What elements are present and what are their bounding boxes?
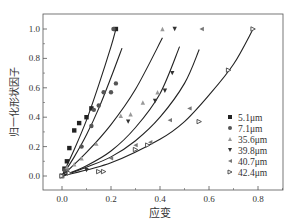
data-point bbox=[228, 115, 232, 119]
data-point bbox=[228, 137, 232, 141]
data-points bbox=[60, 27, 256, 178]
data-point bbox=[89, 124, 93, 128]
x-axis-ticks: 0.00.20.40.60.8 bbox=[56, 186, 282, 204]
data-point bbox=[163, 89, 167, 93]
fit-curve bbox=[62, 29, 253, 176]
x-tick-label: 0.8 bbox=[252, 194, 264, 204]
legend-label: 5.1μm bbox=[238, 113, 263, 123]
legend: 5.1μm7.1μm35.6μm39.8μm40.7μm42.4μm bbox=[228, 113, 268, 178]
legend-label: 39.8μm bbox=[238, 146, 268, 156]
data-point bbox=[148, 140, 152, 144]
data-point bbox=[197, 119, 201, 123]
data-point bbox=[155, 90, 159, 94]
x-tick-label: 0.4 bbox=[154, 194, 166, 204]
data-point bbox=[65, 159, 69, 163]
data-point bbox=[228, 148, 232, 152]
y-tick-label: 0.8 bbox=[29, 53, 41, 63]
y-tick-label: 0.6 bbox=[29, 83, 41, 93]
data-point bbox=[228, 126, 232, 130]
data-point bbox=[111, 27, 115, 31]
y-axis-ticks: 0.00.20.40.60.81.0 bbox=[29, 24, 47, 181]
x-tick-label: 0.2 bbox=[105, 194, 116, 204]
x-tick-label: 0.0 bbox=[56, 194, 68, 204]
data-point bbox=[141, 100, 145, 104]
data-point bbox=[170, 71, 174, 75]
data-point bbox=[84, 115, 88, 119]
legend-label: 42.4μm bbox=[238, 168, 268, 178]
data-point bbox=[168, 118, 172, 122]
data-point bbox=[77, 121, 81, 125]
data-point bbox=[251, 27, 255, 31]
data-point bbox=[173, 27, 177, 31]
fit-curves bbox=[62, 29, 253, 176]
data-point bbox=[67, 171, 71, 175]
data-point bbox=[153, 99, 157, 103]
legend-label: 35.6μm bbox=[238, 135, 268, 145]
data-point bbox=[160, 27, 164, 31]
data-point bbox=[228, 159, 232, 163]
data-point bbox=[126, 119, 130, 123]
chart: 0.00.20.40.60.8 0.00.20.40.60.81.0 5.1μm… bbox=[0, 0, 293, 224]
data-point bbox=[128, 112, 132, 116]
fit-curve bbox=[62, 38, 162, 176]
data-point bbox=[133, 143, 137, 147]
data-point bbox=[92, 108, 96, 112]
y-tick-label: 0.4 bbox=[29, 112, 41, 122]
data-point bbox=[109, 90, 113, 94]
data-point bbox=[101, 169, 105, 173]
data-point bbox=[97, 169, 101, 173]
data-point bbox=[187, 106, 191, 110]
data-point bbox=[146, 143, 150, 147]
data-point bbox=[72, 128, 76, 132]
y-tick-label: 1.0 bbox=[29, 24, 41, 34]
legend-label: 7.1μm bbox=[238, 124, 263, 134]
x-tick-label: 0.6 bbox=[203, 194, 215, 204]
data-point bbox=[97, 103, 101, 107]
y-tick-label: 0.0 bbox=[29, 171, 41, 181]
data-point bbox=[114, 81, 118, 85]
x-axis-label: 应变 bbox=[149, 206, 171, 219]
data-point bbox=[228, 170, 232, 174]
legend-label: 40.7μm bbox=[238, 157, 268, 167]
y-axis-label: 归一化形状因子 bbox=[8, 67, 20, 137]
data-point bbox=[101, 90, 105, 94]
data-point bbox=[199, 27, 203, 31]
data-point bbox=[79, 144, 83, 148]
data-point bbox=[67, 146, 71, 150]
y-tick-label: 0.2 bbox=[29, 142, 40, 152]
